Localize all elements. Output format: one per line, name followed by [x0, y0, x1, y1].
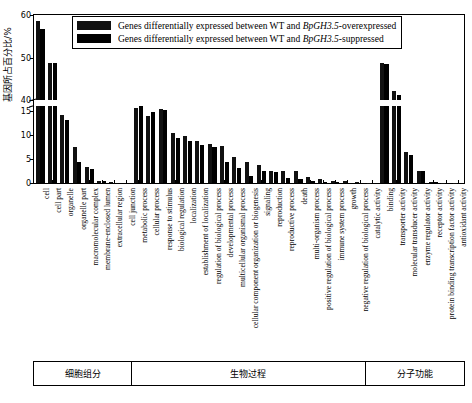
x-category-label-text: organelle part [79, 188, 88, 230]
bar [85, 167, 89, 183]
bar [262, 171, 266, 183]
bar [134, 108, 138, 183]
y-tick-label-60: 60 [21, 11, 31, 20]
y-tick-label-40: 40 [21, 96, 31, 105]
ontology-group-1: 生物过程 [132, 362, 365, 385]
bar [151, 112, 155, 183]
bar [65, 120, 69, 183]
bar [384, 64, 388, 183]
bar [183, 136, 187, 183]
bar [53, 63, 57, 183]
x-category-label-text: response to stimulus [165, 188, 174, 250]
y-axis-title: 基因所占百分比/% [1, 0, 14, 55]
bar [212, 147, 216, 183]
bar [269, 171, 273, 183]
bar [306, 177, 310, 183]
legend-italic-2: BpGH3.5 [303, 34, 339, 44]
x-category-label-text: antioxidant activity [459, 188, 468, 247]
x-category-label-text: reproductive process [287, 188, 296, 251]
y-axis-title-text: 基因所占百分比/% [1, 27, 14, 102]
bar [195, 141, 199, 183]
bar [249, 176, 253, 183]
ontology-group-label: 生物过程 [230, 367, 266, 380]
bar [294, 171, 298, 183]
legend-label-suppressed: Genes differentially expressed between W… [118, 34, 384, 44]
x-category-label: immune system process [337, 115, 346, 188]
bar [311, 181, 315, 183]
bar [208, 144, 212, 183]
bar [188, 141, 192, 183]
x-category-label-text: membrane-enclosed lumen [103, 188, 112, 270]
y-tick-label-15: 15 [21, 106, 31, 115]
x-category-label-text: molecular transducer activity [410, 188, 419, 277]
bar [139, 104, 143, 183]
x-category-label-text: signaling [263, 188, 272, 216]
ontology-group-label: 细胞组分 [65, 367, 101, 380]
bar [77, 162, 81, 183]
legend-item-suppressed: Genes differentially expressed between W… [77, 32, 397, 45]
x-category-label-text: transporter activity [398, 188, 407, 246]
legend-label-overexpressed: Genes differentially expressed between W… [118, 21, 396, 31]
x-category-label-text: positive regulation of biological proces… [324, 188, 333, 310]
x-category-label: membrane-enclosed lumen [103, 106, 112, 188]
bar [421, 171, 425, 183]
legend-suffix-1: -overexpressed [339, 21, 397, 31]
bar [171, 133, 175, 183]
go-annotation-chart: 基因所占百分比/% 051015405060 Genes differentia… [0, 0, 472, 403]
legend-item-overexpressed: Genes differentially expressed between W… [77, 19, 397, 32]
bar [409, 155, 413, 183]
x-category-label: growth [349, 166, 358, 188]
x-category-label-text: binding [386, 188, 395, 211]
bar [404, 152, 408, 183]
x-category-label-text: establishment of localization [201, 188, 210, 275]
y-tick-label-50: 50 [21, 53, 31, 62]
legend-prefix-1: Genes differentially expressed between W… [118, 21, 303, 31]
y-tick-label-0: 0 [26, 179, 31, 188]
legend-suffix-2: -suppressed [339, 34, 384, 44]
x-category-label-text: negative regulation of biological proces… [361, 188, 370, 312]
bar [397, 95, 401, 183]
bar [343, 181, 347, 183]
bar [286, 178, 290, 183]
legend: Genes differentially expressed between W… [72, 16, 402, 49]
bar [237, 168, 241, 183]
ontology-group-0: 细胞组分 [34, 362, 132, 385]
x-category-label-text: regulation of biological process [214, 188, 223, 284]
x-category-label-text: cell [42, 188, 51, 199]
bar [109, 182, 113, 183]
x-category-label-text: organelle [66, 188, 75, 216]
bar [200, 145, 204, 183]
x-category-label: extracellular region [115, 129, 124, 188]
bar [60, 115, 64, 183]
bar [318, 179, 322, 183]
x-category-label-text: enzyme regulator activity [423, 188, 432, 266]
x-category-label-text: cellular process [152, 188, 161, 235]
x-category-label-text: multicellular organismal process [238, 188, 247, 287]
x-category-label-text: receptor activity [435, 188, 444, 238]
bar [274, 172, 278, 183]
bar [298, 179, 302, 183]
overexpressed-swatch [77, 21, 111, 30]
x-category-label: multi-organism process [312, 117, 321, 188]
x-category-label-text: developmental process [226, 188, 235, 257]
bar [90, 169, 94, 183]
bar [257, 165, 261, 183]
bar [355, 182, 359, 183]
axis-break-band-overlay [34, 100, 464, 106]
x-category-label-text: biological regulation [177, 188, 186, 251]
x-category-label-text: reproduction [275, 188, 284, 227]
bar [159, 109, 163, 183]
x-category-label-text: localization [189, 188, 198, 223]
bar [48, 63, 52, 183]
ontology-group-bar: 细胞组分生物过程分子功能 [33, 361, 465, 386]
y-tick-label-5: 5 [26, 154, 31, 163]
bar [429, 182, 433, 183]
legend-italic-1: BpGH3.5 [303, 21, 339, 31]
bar [323, 182, 327, 183]
bar [225, 162, 229, 183]
bar [176, 138, 180, 183]
x-category-label-text: cell junction [128, 188, 137, 226]
x-tick [126, 180, 127, 183]
bar [380, 63, 384, 183]
bar [417, 171, 421, 183]
